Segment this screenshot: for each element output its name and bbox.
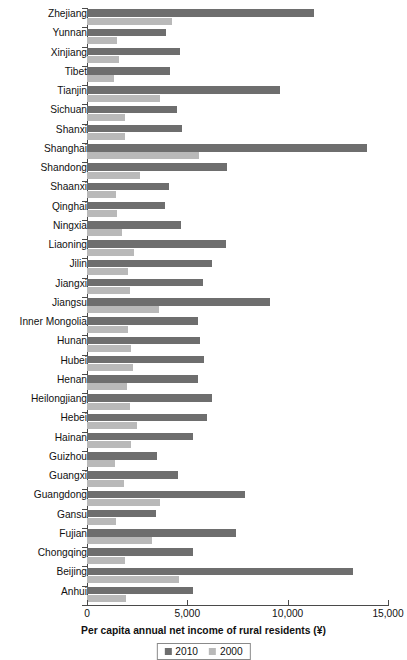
bar-2000	[87, 518, 116, 525]
bar-group	[87, 104, 407, 123]
bar-2010	[87, 298, 270, 305]
category-label: Inner Mongolia	[0, 316, 87, 327]
bar-2000	[87, 403, 130, 410]
bar-row: Shaanxi	[0, 181, 407, 200]
bar-2010	[87, 67, 170, 74]
y-axis-tick	[82, 278, 87, 279]
y-axis-tick	[82, 412, 87, 413]
bar-2000	[87, 441, 131, 448]
bar-group	[87, 432, 407, 451]
legend-swatch-2010-icon	[164, 648, 171, 655]
y-axis-tick	[82, 393, 87, 394]
category-label: Hebei	[0, 412, 87, 423]
bar-2010	[87, 86, 280, 93]
bar-row: Anhui	[0, 586, 407, 605]
y-axis-tick	[82, 201, 87, 202]
bar-2000	[87, 557, 125, 564]
bar-2000	[87, 229, 122, 236]
bar-2000	[87, 95, 160, 102]
bar-rows: ZhejiangYunnanXinjiangTibetTianjinSichua…	[0, 8, 407, 605]
bar-group	[87, 451, 407, 470]
bar-row: Tibet	[0, 66, 407, 85]
y-axis-tick	[82, 162, 87, 163]
category-label: Chongqing	[0, 547, 87, 558]
bar-2010	[87, 202, 165, 209]
y-axis-tick	[82, 335, 87, 336]
bar-row: Sichuan	[0, 104, 407, 123]
y-axis-tick	[82, 181, 87, 182]
bar-group	[87, 27, 407, 46]
bar-2000	[87, 37, 117, 44]
bar-row: Ningxia	[0, 220, 407, 239]
bar-group	[87, 566, 407, 585]
bar-2000	[87, 172, 140, 179]
bar-row: Guizhou	[0, 451, 407, 470]
bar-2010	[87, 317, 198, 324]
bar-2010	[87, 452, 157, 459]
bar-group	[87, 201, 407, 220]
category-label: Shandong	[0, 162, 87, 173]
category-label: Shaanxi	[0, 181, 87, 192]
y-axis-tick	[82, 143, 87, 144]
bar-2010	[87, 471, 178, 478]
bar-row: Xinjiang	[0, 47, 407, 66]
bar-2010	[87, 125, 182, 132]
legend-item-2000[interactable]: 2000	[209, 646, 243, 657]
category-label: Shanghai	[0, 143, 87, 154]
x-axis-tick	[388, 600, 389, 606]
x-axis-tick	[87, 600, 88, 606]
bar-group	[87, 355, 407, 374]
category-label: Sichuan	[0, 104, 87, 115]
bar-group	[87, 239, 407, 258]
bar-row: Hunan	[0, 335, 407, 354]
y-axis-tick	[82, 451, 87, 452]
bar-2010	[87, 29, 166, 36]
x-axis-title: Per capita annual net income of rural re…	[0, 625, 407, 636]
bar-2000	[87, 133, 125, 140]
bar-2000	[87, 268, 128, 275]
category-label: Henan	[0, 374, 87, 385]
bar-group	[87, 181, 407, 200]
bar-2010	[87, 183, 169, 190]
category-label: Xinjiang	[0, 47, 87, 58]
bar-2010	[87, 568, 353, 575]
x-axis-tick	[187, 600, 188, 606]
category-label: Guizhou	[0, 451, 87, 462]
bar-2000	[87, 326, 128, 333]
bar-2000	[87, 364, 133, 371]
bar-2010	[87, 240, 226, 247]
category-label: Gansu	[0, 509, 87, 520]
category-label: Heilongjiang	[0, 393, 87, 404]
bar-2010	[87, 221, 181, 228]
bar-group	[87, 335, 407, 354]
legend-item-2010[interactable]: 2010	[164, 646, 198, 657]
bar-row: Hubei	[0, 355, 407, 374]
bar-2010	[87, 279, 203, 286]
bar-2000	[87, 537, 152, 544]
bar-group	[87, 258, 407, 277]
y-axis-tick	[82, 8, 87, 9]
y-axis-tick	[82, 124, 87, 125]
bar-row: Fujian	[0, 528, 407, 547]
bar-group	[87, 278, 407, 297]
category-label: Fujian	[0, 528, 87, 539]
bar-2010	[87, 587, 193, 594]
category-label: Anhui	[0, 586, 87, 597]
bar-row: Chongqing	[0, 547, 407, 566]
bar-row: Jiangsu	[0, 297, 407, 316]
bar-2000	[87, 576, 179, 583]
y-axis-tick	[82, 489, 87, 490]
bar-row: Henan	[0, 374, 407, 393]
y-axis-tick	[82, 374, 87, 375]
bar-row: Liaoning	[0, 239, 407, 258]
y-axis-tick	[82, 297, 87, 298]
bar-2000	[87, 287, 130, 294]
category-label: Hainan	[0, 432, 87, 443]
bar-2010	[87, 163, 227, 170]
bar-group	[87, 66, 407, 85]
bar-2010	[87, 48, 180, 55]
bar-group	[87, 509, 407, 528]
legend: 2010 2000	[156, 643, 250, 660]
bar-row: Hebei	[0, 412, 407, 431]
